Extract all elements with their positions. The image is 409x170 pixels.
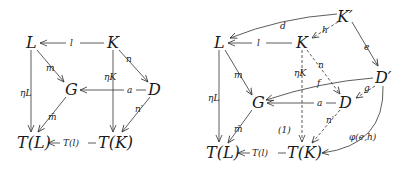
label-g: g	[364, 83, 370, 93]
label-Tl: T(l)	[63, 138, 79, 148]
label-n: n	[126, 54, 132, 64]
node-L: L	[213, 33, 225, 52]
edge-nprime	[122, 97, 150, 132]
node-Kprime: K′	[336, 7, 353, 26]
label-d: d	[280, 21, 286, 31]
label-m: m	[46, 63, 55, 73]
label-l: l	[257, 38, 260, 48]
label-mbar: m̄	[234, 124, 243, 134]
label-nprime: n′	[135, 104, 143, 114]
label-m: m	[234, 70, 243, 80]
label-e: e	[364, 42, 369, 52]
label-l: l	[70, 38, 73, 48]
node-Dprime: D′	[374, 68, 392, 87]
left-diagram: L K G D T(L) T(K) l m n ηL ηK a n′ m̄ T(…	[17, 33, 161, 152]
label-mbar: m̄	[48, 112, 57, 122]
label-n: n	[318, 60, 324, 70]
node-G: G	[65, 80, 78, 99]
label-nprime: n′	[326, 115, 334, 125]
label-etaK: ηK	[104, 72, 117, 82]
node-K: K	[295, 33, 309, 52]
label-phi: φ(e,h)	[349, 132, 377, 142]
label-etaK: ηK	[294, 68, 307, 78]
label-f: f	[316, 78, 322, 88]
label-Tl: T(l)	[252, 148, 268, 158]
node-K: K	[106, 33, 120, 52]
label-etaL: ηL	[20, 88, 31, 98]
label-etaL: ηL	[208, 93, 219, 103]
region-label-1: (1)	[278, 125, 291, 135]
edge-n	[119, 50, 148, 82]
right-diagram: K′ L K D′ G D T(L) T(K) d h e l m n ηL η…	[206, 7, 392, 162]
label-a: a	[127, 85, 132, 95]
node-TK: T(K)	[98, 133, 133, 152]
node-D: D	[338, 93, 352, 112]
node-TL: T(L)	[206, 143, 240, 162]
node-D: D	[147, 80, 161, 99]
node-G: G	[252, 93, 265, 112]
label-a: a	[317, 98, 322, 108]
node-TK: T(K)	[287, 143, 322, 162]
node-L: L	[25, 33, 37, 52]
label-h: h	[322, 25, 328, 35]
commutative-diagrams: L K G D T(L) T(K) l m n ηL ηK a n′ m̄ T(…	[0, 0, 409, 170]
node-TL: T(L)	[17, 133, 51, 152]
